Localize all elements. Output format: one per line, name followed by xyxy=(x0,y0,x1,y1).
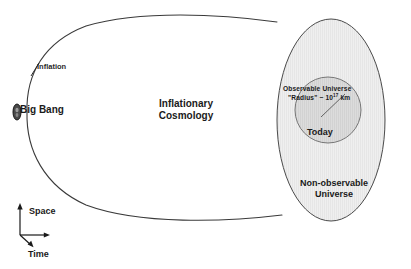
label-inflationary-cosmology: Inflationary Cosmology xyxy=(144,98,228,122)
label-inflation: Inflation xyxy=(37,63,66,72)
non-observable-line-1: Non-observable xyxy=(300,178,368,188)
label-axis-space: Space xyxy=(29,206,56,217)
label-axis-time: Time xyxy=(28,249,49,260)
non-observable-line-2: Universe xyxy=(315,189,353,199)
inflationary-cosmology-line-1: Inflationary xyxy=(159,98,213,109)
label-big-bang: Big Bang xyxy=(20,104,64,116)
label-today: Today xyxy=(307,127,333,138)
label-non-observable-universe: Non-observable Universe xyxy=(288,178,380,199)
inflationary-cosmology-line-2: Cosmology xyxy=(159,110,213,121)
label-observable-radius: "Radius" ~ 1017 km xyxy=(288,94,350,102)
radius-unit-text: km xyxy=(338,94,350,101)
cosmology-diagram-canvas: Inflation Big Bang Inflationary Cosmolog… xyxy=(0,0,411,269)
label-observable-universe: Observable Universe xyxy=(283,85,351,93)
radius-prefix-text: "Radius" ~ 10 xyxy=(288,94,333,101)
diagram-vector-layer xyxy=(0,0,411,269)
